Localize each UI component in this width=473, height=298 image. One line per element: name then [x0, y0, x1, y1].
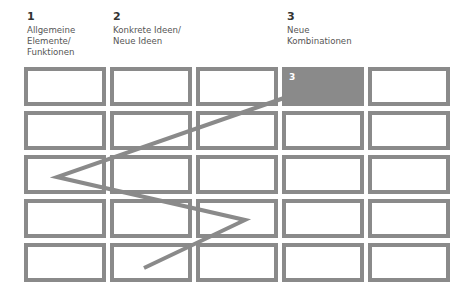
- grid-cell: [24, 243, 106, 282]
- grid-cell: [368, 155, 450, 194]
- grid-cell: [368, 67, 450, 106]
- grid-cell: [282, 155, 364, 194]
- grid-cell-highlighted: 3: [282, 67, 364, 106]
- grid-cell: [24, 67, 106, 106]
- grid-cell: [196, 199, 278, 238]
- morphological-grid: 3: [0, 0, 473, 298]
- grid-cell: [196, 243, 278, 282]
- grid-cell: [196, 67, 278, 106]
- grid-cell: [368, 199, 450, 238]
- grid-cell: [196, 155, 278, 194]
- grid-cell: [282, 243, 364, 282]
- grid-cell: [282, 111, 364, 150]
- grid-cell: [196, 111, 278, 150]
- grid-cell: [110, 155, 192, 194]
- grid-cell: [24, 111, 106, 150]
- grid-cell: [110, 111, 192, 150]
- grid-cell: [24, 155, 106, 194]
- cell-label: 3: [289, 72, 295, 82]
- grid-cell: [282, 199, 364, 238]
- grid-cell: [110, 243, 192, 282]
- grid-cell: [110, 199, 192, 238]
- grid-cell: [368, 243, 450, 282]
- grid-cell: [368, 111, 450, 150]
- grid-cell: [110, 67, 192, 106]
- grid-cell: [24, 199, 106, 238]
